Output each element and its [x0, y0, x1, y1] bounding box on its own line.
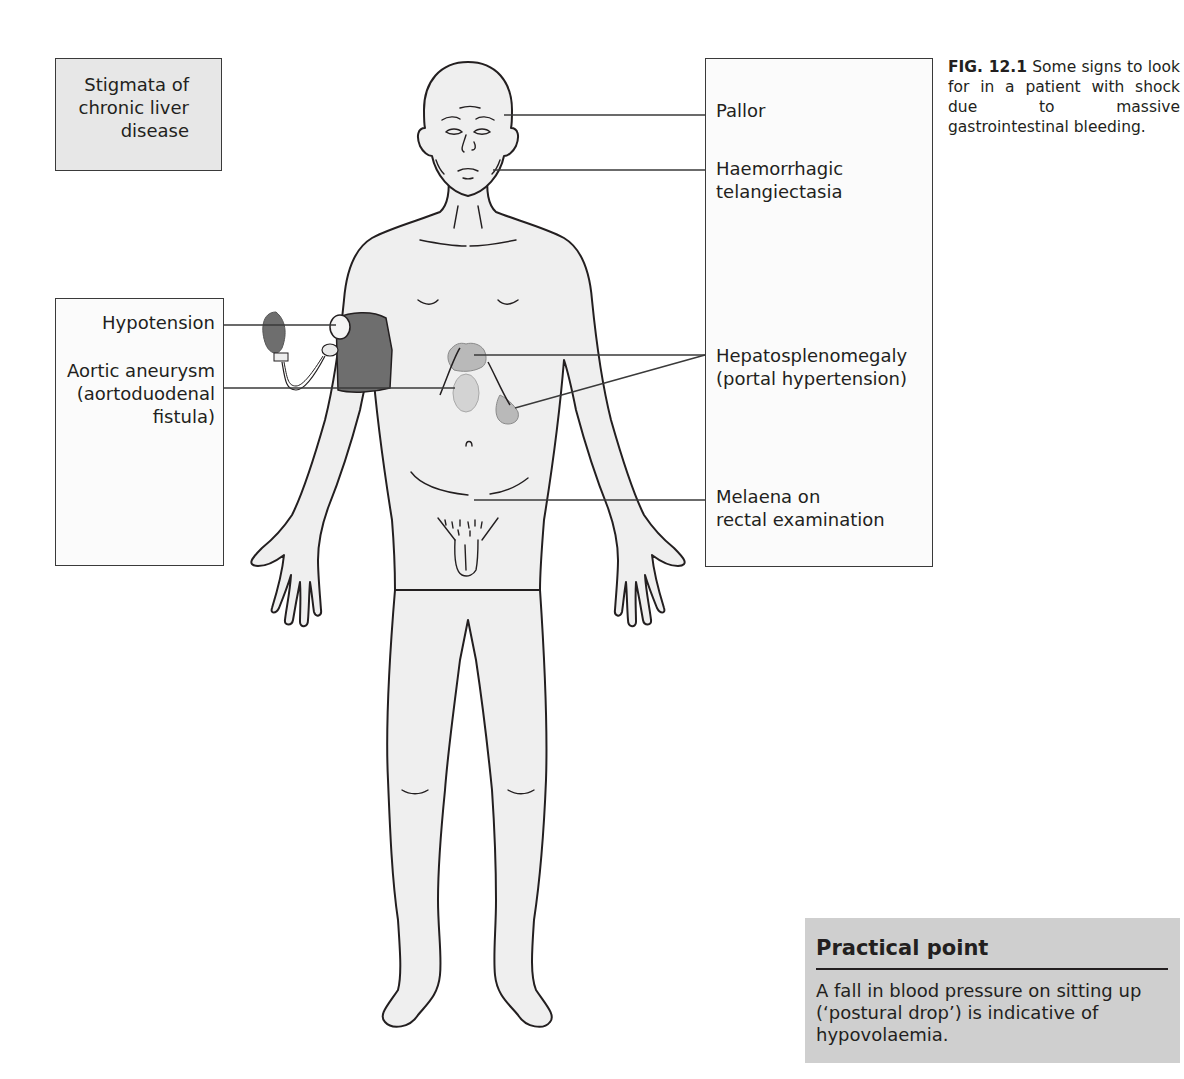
- stigmata-line-3: disease: [79, 119, 189, 142]
- stigmata-line-1: Stigmata of: [79, 73, 189, 96]
- hypotension-text: Hypotension: [102, 311, 215, 334]
- pallor-label: Pallor: [716, 99, 766, 122]
- hepatosplenomegaly-line-2: (portal hypertension): [716, 367, 907, 390]
- right-signs-box: Pallor Haemorrhagic telangiectasia Hepat…: [705, 58, 933, 567]
- stigmata-label: Stigmata of chronic liver disease: [79, 73, 189, 142]
- hepatosplenomegaly-label: Hepatosplenomegaly (portal hypertension): [716, 344, 907, 390]
- stigmata-label-box: Stigmata of chronic liver disease: [55, 58, 222, 171]
- liver-shape: [448, 343, 486, 371]
- left-signs-box: Hypotension Aortic aneurysm (aortoduoden…: [55, 298, 224, 566]
- telangiectasia-line-2: telangiectasia: [716, 180, 843, 203]
- figure-number: FIG. 12.1: [948, 58, 1027, 76]
- aortic-line-2: (aortoduodenal: [67, 382, 215, 405]
- aortic-line-1: Aortic aneurysm: [67, 359, 215, 382]
- aortic-aneurysm-label: Aortic aneurysm (aortoduodenal fistula): [67, 359, 215, 428]
- human-figure: [251, 62, 684, 1027]
- figure-caption: FIG. 12.1 Some signs to look for in a pa…: [948, 57, 1180, 137]
- stigmata-line-2: chronic liver: [79, 96, 189, 119]
- practical-point-divider: [816, 968, 1168, 970]
- melaena-line-2: rectal examination: [716, 508, 885, 531]
- pallor-text: Pallor: [716, 99, 766, 122]
- telangiectasia-label: Haemorrhagic telangiectasia: [716, 157, 843, 203]
- aortic-line-3: fistula): [67, 405, 215, 428]
- melaena-label: Melaena on rectal examination: [716, 485, 885, 531]
- practical-point-body: A fall in blood pressure on sitting up (…: [816, 980, 1181, 1046]
- melaena-line-1: Melaena on: [716, 485, 885, 508]
- telangiectasia-line-1: Haemorrhagic: [716, 157, 843, 180]
- hepatosplenomegaly-line-1: Hepatosplenomegaly: [716, 344, 907, 367]
- practical-point-title: Practical point: [816, 936, 988, 960]
- hypotension-label: Hypotension: [102, 311, 215, 334]
- aorta-shape: [453, 374, 479, 412]
- practical-point-box: Practical point A fall in blood pressure…: [805, 918, 1180, 1063]
- blood-pressure-cuff: [263, 312, 392, 392]
